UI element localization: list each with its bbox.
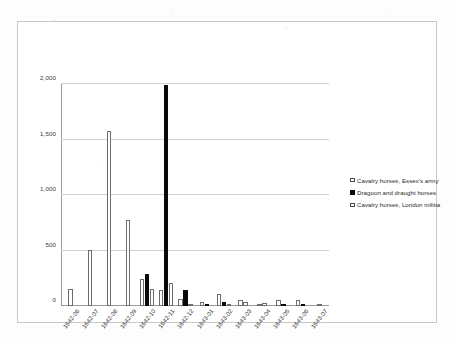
legend-swatch-icon (350, 190, 355, 195)
x-tick-label: 1642-12 (176, 308, 195, 330)
legend-label: Cavalry horses, Essex's army (357, 177, 438, 184)
x-tick-label: 1643-02 (215, 308, 234, 330)
x-tick-label: 1643-05 (272, 308, 291, 330)
legend-item[interactable]: Dragoon and draught horses (350, 186, 455, 198)
x-tick-label: 1642-11 (158, 308, 176, 329)
bar (183, 290, 187, 306)
bar-group (233, 84, 252, 306)
bar-group (138, 84, 157, 306)
bar-group (61, 84, 80, 306)
y-tick-label: 500 (45, 240, 56, 247)
bar (145, 274, 149, 306)
x-tick-label: 1643-03 (234, 308, 253, 330)
x-tick-label: 1642-08 (100, 308, 119, 330)
bar (178, 299, 182, 306)
x-tick-label: 1642-06 (62, 308, 81, 330)
bar (217, 294, 221, 306)
x-tick-label: 1643-06 (291, 308, 310, 330)
bar (107, 131, 111, 306)
bar-group (118, 84, 137, 306)
legend-item[interactable]: Cavalry horses, Essex's army (350, 174, 455, 186)
bar-group (272, 84, 291, 306)
legend-label: Cavalry horses, London militia (357, 201, 440, 208)
bar-series-layer (61, 84, 329, 306)
bar (68, 289, 72, 306)
x-tick-label: 1643-01 (196, 308, 215, 330)
bar (159, 290, 163, 306)
y-tick-label: 1,500 (40, 129, 56, 136)
bar-group (252, 84, 271, 306)
bar-group (99, 84, 118, 306)
bar (164, 85, 168, 306)
legend-swatch-icon (350, 203, 355, 208)
bar-group (291, 84, 310, 306)
chart-frame: 05001,0001,5002,000 1642-061642-071642-0… (17, 21, 437, 323)
bar (88, 250, 92, 306)
legend-swatch-icon (350, 178, 355, 183)
bar-group (214, 84, 233, 306)
bar (126, 220, 130, 306)
legend-item[interactable]: Cavalry horses, London militia (350, 199, 455, 211)
bar (169, 283, 173, 306)
x-tick-label: 1642-10 (138, 308, 157, 330)
bar-group (80, 84, 99, 306)
x-tick-label: 1643-04 (253, 308, 272, 330)
bar (150, 289, 154, 306)
bar-group (310, 84, 329, 306)
chart-legend: Cavalry horses, Essex's armyDragoon and … (350, 174, 455, 211)
y-tick-label: 2,000 (40, 74, 56, 81)
y-tick-label: 0 (52, 296, 56, 303)
x-axis-tick-labels: 1642-061642-071642-081642-091642-101642-… (61, 306, 329, 345)
y-tick-label: 1,000 (40, 185, 56, 192)
x-tick-label: 1642-09 (119, 308, 138, 330)
bar-group (157, 84, 176, 306)
bar-group (176, 84, 195, 306)
x-tick-label: 1642-07 (81, 308, 100, 330)
bar (140, 279, 144, 306)
bar-group (195, 84, 214, 306)
legend-label: Dragoon and draught horses (357, 189, 436, 196)
plot-area: 05001,0001,5002,000 (61, 84, 329, 306)
x-tick-label: 1643-07 (310, 308, 329, 330)
